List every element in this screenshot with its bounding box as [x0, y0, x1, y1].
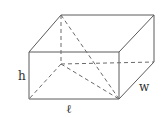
bottom-left-hidden-slant-edge	[29, 64, 61, 99]
bottom-face-diagonal	[61, 64, 119, 99]
hidden-edges	[29, 15, 154, 99]
top-left-slant-edge	[29, 15, 61, 52]
visible-edges	[29, 15, 154, 99]
top-right-slant-edge	[119, 15, 154, 52]
width-label: w	[139, 80, 150, 94]
height-label: h	[18, 69, 26, 83]
back-bottom-hidden-edge	[61, 62, 154, 64]
length-label: ℓ	[66, 102, 72, 116]
rectangular-prism-diagram: h ℓ w	[0, 0, 162, 118]
space-diagonal	[61, 15, 119, 99]
